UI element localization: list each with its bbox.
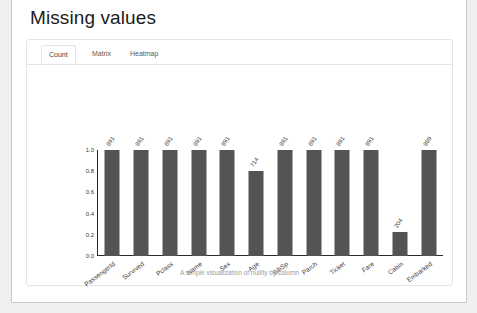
bar-chart: 1.00.80.60.40.20.0 891PassengerId891Surv… (27, 65, 452, 287)
bar-value-label: 204 (393, 217, 404, 229)
bar-group: 891Ticket (328, 150, 357, 256)
bar-value-label: 891 (105, 135, 116, 147)
bar-group: 891Sex (213, 150, 242, 256)
chart-caption: A simple visualization of nullity by col… (27, 269, 452, 276)
chart-card: Count Matrix Heatmap 1.00.80.60.40.20.0 … (26, 39, 453, 286)
bar-value-label: 891 (278, 135, 289, 147)
page-sheet: Missing values Count Matrix Heatmap 1.00… (11, 0, 467, 303)
bar (306, 150, 321, 256)
y-axis-tick: 0.4 (86, 211, 94, 217)
y-axis-tick: 0.6 (86, 189, 94, 195)
y-axis-tick: 0.2 (86, 232, 94, 238)
y-axis-tick: 0.8 (86, 168, 94, 174)
tab-heatmap[interactable]: Heatmap (123, 45, 165, 64)
y-axis-tick-labels: 1.00.80.60.40.20.0 (71, 65, 94, 287)
y-axis-tick: 0.0 (86, 253, 94, 259)
bar (392, 232, 407, 256)
bar-value-label: 891 (364, 135, 375, 147)
bar-group: 891Pclass (156, 150, 185, 256)
bar-value-label: 889 (422, 136, 433, 148)
y-axis-tick: 1.0 (86, 147, 94, 153)
tab-bar: Count Matrix Heatmap (27, 40, 452, 65)
bar-value-label: 891 (192, 135, 203, 147)
bar-group: 891SibSp (271, 150, 300, 256)
bar-value-label: 891 (220, 135, 231, 147)
bar-group: 891Name (184, 150, 213, 256)
bar-group: 891Fare (357, 150, 386, 256)
bar (191, 150, 206, 256)
bar-value-label: 891 (163, 135, 174, 147)
bar (277, 150, 292, 256)
tab-count[interactable]: Count (41, 45, 76, 64)
bar (364, 150, 379, 256)
bar-value-label: 714 (249, 156, 260, 168)
bar-group: 204Cabin (386, 150, 415, 256)
bar (249, 171, 264, 256)
bar (134, 150, 149, 256)
bar (335, 150, 350, 256)
bar (421, 150, 436, 256)
bar (162, 150, 177, 256)
bar-series: 891PassengerId891Survived891Pclass891Nam… (98, 150, 443, 256)
bar-value-label: 891 (335, 135, 346, 147)
bar-group: 889Embarked (414, 150, 443, 256)
page-title: Missing values (30, 7, 156, 29)
bar-group: 714Age (242, 150, 271, 256)
tab-matrix[interactable]: Matrix (85, 45, 118, 64)
bar-group: 891Parch (299, 150, 328, 256)
bar-value-label: 891 (134, 135, 145, 147)
bar-group: 891Survived (127, 150, 156, 256)
bar (220, 150, 235, 256)
bar-value-label: 891 (307, 135, 318, 147)
bar (105, 150, 120, 256)
bar-group: 891PassengerId (98, 150, 127, 256)
